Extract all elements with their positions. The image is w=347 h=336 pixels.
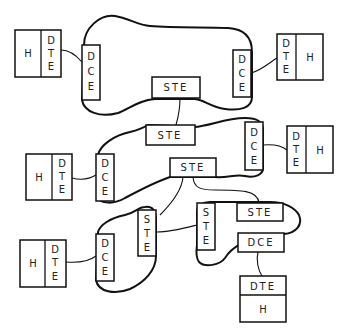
dce-letter-c: C	[102, 252, 109, 263]
link-host5-to-net3-dce	[66, 256, 96, 262]
dte-letter-t: T	[292, 144, 300, 155]
host-2: D T E H	[277, 34, 323, 80]
ste-label: STE	[158, 130, 183, 141]
dce-letter-d: D	[87, 51, 95, 62]
dte-letter-d: D	[51, 244, 59, 255]
net1-dce-left: D C E	[82, 45, 100, 100]
dte-letter-t: T	[47, 48, 55, 59]
dte-letter-e: E	[48, 61, 54, 72]
ste-letter-s: S	[144, 214, 150, 225]
host-6: DTE H	[240, 276, 286, 322]
dce-letter-e: E	[102, 266, 108, 277]
dte-letter-e: E	[59, 184, 65, 195]
dte-letter-d: D	[282, 38, 290, 49]
host-label: H	[259, 304, 267, 315]
link-host4-to-net2-dce	[72, 175, 96, 179]
dte-letter-e: E	[52, 271, 58, 282]
host-4: H D T E	[26, 154, 72, 200]
link-net4-dce-to-host6	[257, 252, 262, 276]
dce-letter-d: D	[250, 127, 258, 138]
dte-letter-t: T	[58, 171, 66, 182]
dce-letter-c: C	[88, 66, 95, 77]
dce-letter-c: C	[102, 172, 109, 183]
dce-letter-c: C	[251, 141, 258, 152]
host-label: H	[29, 258, 37, 269]
ste-letter-e: E	[203, 235, 209, 246]
net4-ste-vertical: S T E	[197, 203, 215, 250]
dce-letter-d: D	[238, 54, 246, 65]
dce-letter-e: E	[251, 155, 257, 166]
link-net2-dce-to-host3	[263, 145, 287, 150]
net2-dce-left: D C E	[96, 154, 114, 201]
host-5: H D T E	[20, 240, 66, 287]
dte-letter-d: D	[58, 158, 66, 169]
net4-dce: DCE	[238, 233, 284, 252]
net2-ste-top: STE	[146, 125, 195, 145]
link-net3-ste-to-net4-ste	[157, 225, 197, 232]
net3-ste: S T E	[138, 210, 156, 256]
network-diagram: H D T E D C E D C E STE D T E H STE D C …	[0, 0, 347, 336]
dte-letter-t: T	[51, 257, 59, 268]
link-net1-dce-to-host2	[251, 58, 277, 73]
dte-letter-t: T	[282, 51, 290, 62]
dte-letter-d: D	[292, 131, 300, 142]
dte-letter-e: E	[293, 157, 299, 168]
dte-label: DTE	[250, 281, 276, 292]
ste-letter-e: E	[144, 242, 150, 253]
host-label: H	[316, 145, 324, 156]
dce-letter-e: E	[102, 186, 108, 197]
link-net1-ste-to-net2-ste	[176, 98, 180, 125]
ste-letter-t: T	[202, 221, 210, 232]
host-3: D T E H	[287, 126, 333, 173]
dce-letter-d: D	[101, 238, 109, 249]
host-label: H	[35, 172, 43, 183]
dce-letter-c: C	[239, 68, 246, 79]
net4-ste: STE	[237, 203, 283, 221]
net2-ste-mid: STE	[170, 158, 216, 177]
net3-dce: D C E	[96, 234, 114, 281]
ste-label: STE	[181, 162, 206, 173]
net2-dce-right: D C E	[245, 122, 263, 170]
ste-letter-s: S	[203, 207, 209, 218]
network-1-boundary	[82, 16, 252, 115]
dte-letter-e: E	[283, 64, 289, 75]
dte-letter-d: D	[47, 35, 55, 46]
dce-letter-e: E	[239, 82, 245, 93]
net1-ste: STE	[152, 77, 200, 98]
host-1: H D T E	[15, 30, 61, 77]
host-label: H	[306, 52, 314, 63]
dce-letter-e: E	[88, 81, 94, 92]
net1-dce-right: D C E	[233, 50, 251, 97]
ste-letter-t: T	[143, 228, 151, 239]
ste-label: STE	[164, 82, 189, 93]
dce-label: DCE	[247, 237, 274, 248]
link-net2-ste-to-net3-ste	[160, 177, 183, 215]
dce-letter-d: D	[101, 158, 109, 169]
ste-label: STE	[248, 207, 273, 218]
host-label: H	[24, 48, 32, 59]
link-net2-ste-to-net4-ste	[193, 177, 259, 203]
link-host1-to-net1-dce	[61, 50, 82, 62]
